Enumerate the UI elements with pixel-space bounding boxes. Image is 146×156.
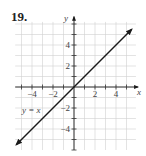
y-tick-label: −2 [60,103,70,113]
x-axis-label: x [136,87,141,97]
y-tick-label: 4 [66,40,71,50]
x-tick-label: 2 [93,89,98,99]
x-tick-label: −2 [48,89,58,99]
equation-label: y = x [21,105,41,115]
x-tick-label: 4 [114,89,119,99]
y-tick-label: −4 [60,124,70,134]
y-axis-label: y [63,13,68,23]
axes [15,17,138,150]
x-tick-label: −4 [27,89,37,99]
y-tick-label: 2 [66,61,71,71]
coordinate-plane: −4−22442−2−4 x y y = x [0,0,146,156]
